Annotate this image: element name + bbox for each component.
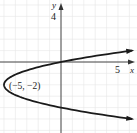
- y-axis-label: y: [51, 0, 56, 10]
- y-axis: [59, 3, 64, 133]
- y-tick-label: 4: [51, 11, 56, 22]
- x-axis-label: x: [129, 65, 134, 75]
- vertex-label: (−5, −2): [9, 81, 40, 92]
- graph-canvas: y 4 x 5 (−5, −2): [0, 0, 137, 133]
- curve-arrow-lower-icon: [126, 116, 134, 121]
- x-tick-label: 5: [115, 64, 120, 75]
- parabola-graph: y 4 x 5 (−5, −2): [0, 0, 137, 133]
- y-axis-arrow-icon: [59, 3, 64, 10]
- curve-arrow-upper-icon: [126, 49, 134, 54]
- x-axis-arrow-icon: [128, 60, 135, 65]
